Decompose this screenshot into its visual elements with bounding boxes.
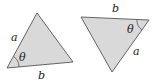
right-label-b: b: [112, 2, 119, 15]
left-triangle: a θ b: [7, 13, 73, 82]
right-label-theta: θ: [127, 23, 134, 36]
left-label-b: b: [38, 69, 45, 82]
left-label-theta: θ: [19, 51, 26, 64]
left-label-a: a: [11, 31, 18, 44]
right-triangle: b θ a: [81, 2, 149, 72]
triangle-diagram: a θ b b θ a: [0, 0, 154, 84]
right-label-a: a: [133, 45, 140, 58]
